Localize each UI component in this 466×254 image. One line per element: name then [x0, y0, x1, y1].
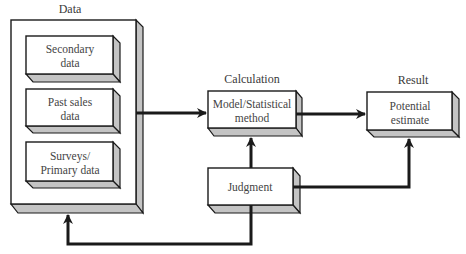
past-sales-label-line2: data	[60, 110, 79, 122]
data-group-label: Data	[59, 2, 82, 16]
model-statistical-method-box: Model/Statistical method	[208, 91, 302, 136]
surveys-label-line2: Primary data	[40, 164, 99, 177]
past-sales-data-box: Past sales data	[26, 89, 120, 133]
potential-estimate-box: Potential estimate	[367, 92, 459, 137]
judgment-box: Judgment	[208, 168, 300, 213]
surveys-label-line1: Surveys/	[50, 150, 91, 163]
sales-estimate-flow-diagram: Data Calculation Result Secondary data P…	[0, 0, 466, 254]
surveys-primary-data-box: Surveys/ Primary data	[26, 142, 120, 188]
model-label-line2: method	[235, 112, 270, 124]
calculation-group-label: Calculation	[224, 72, 279, 86]
judgment-label: Judgment	[228, 181, 274, 194]
result-label-line1: Potential	[390, 100, 431, 112]
model-label-line1: Model/Statistical	[213, 98, 292, 110]
secondary-data-label-line2: data	[60, 57, 79, 69]
arrow-judgment-to-result	[293, 139, 409, 187]
result-group-label: Result	[398, 73, 429, 87]
secondary-data-box: Secondary data	[26, 36, 120, 82]
result-label-line2: estimate	[391, 114, 429, 126]
past-sales-label-line1: Past sales	[48, 96, 93, 108]
secondary-data-label-line1: Secondary	[46, 43, 95, 56]
